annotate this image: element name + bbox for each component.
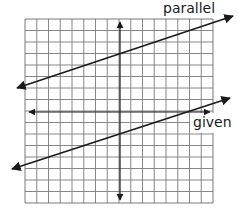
parallel-label: parallel xyxy=(163,1,215,15)
lines-group xyxy=(12,16,233,200)
parallel-line xyxy=(17,16,233,88)
graph-paper-grid xyxy=(25,19,213,203)
given-line xyxy=(12,98,230,169)
grid-diagram xyxy=(0,0,238,209)
given-label: given xyxy=(192,115,232,132)
